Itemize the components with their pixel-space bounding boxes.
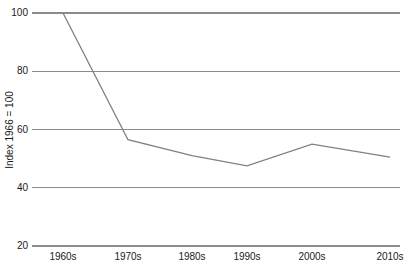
y-axis-title: Index 1966 = 100 [4,91,15,169]
y-tick-label: 40 [17,182,29,193]
y-axis-title-text: Index 1966 = 100 [4,91,15,169]
chart-canvas: 20406080100 1960s1970s1980s1990s2000s201… [0,0,413,271]
x-tick-label: 2010s [376,251,403,262]
y-tick-label: 100 [11,7,28,18]
y-tick-label: 20 [17,240,29,251]
x-tick-label: 1970s [114,251,141,262]
y-tick-label: 80 [17,65,29,76]
y-tick-label: 60 [17,124,29,135]
x-tick-label: 1990s [233,251,260,262]
x-tick-label: 2000s [298,251,325,262]
chart-background [0,0,413,271]
x-tick-label: 1980s [178,251,205,262]
x-tick-label: 1960s [49,251,76,262]
line-chart: 20406080100 1960s1970s1980s1990s2000s201… [0,0,413,271]
